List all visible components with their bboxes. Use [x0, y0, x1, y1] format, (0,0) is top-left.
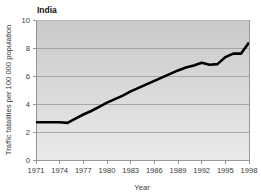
y-tick-label: 10: [22, 16, 30, 25]
chart-title: India: [37, 5, 57, 15]
x-tick-label: 1974: [51, 166, 68, 175]
x-tick-label: 1989: [170, 166, 187, 175]
line-chart: 0246810 19711974197719801983198619891992…: [0, 0, 261, 193]
x-tick-label: 1998: [241, 166, 258, 175]
y-axis-ticks: 0246810: [22, 16, 36, 165]
y-axis-title: Traffic fatalities per 100 000 populatio…: [4, 25, 13, 155]
x-tick-label: 1977: [75, 166, 92, 175]
x-axis-ticks: 1971197419771980198319861989199219951998: [28, 160, 258, 175]
y-tick-label: 8: [26, 44, 30, 53]
y-tick-label: 2: [26, 128, 30, 137]
x-tick-label: 1992: [193, 166, 210, 175]
x-tick-label: 1986: [146, 166, 163, 175]
x-tick-label: 1971: [28, 166, 45, 175]
y-tick-label: 6: [26, 72, 30, 81]
x-tick-label: 1983: [122, 166, 139, 175]
x-tick-label: 1980: [99, 166, 116, 175]
x-tick-label: 1995: [217, 166, 234, 175]
y-tick-label: 0: [26, 156, 30, 165]
plot-area-background: [36, 20, 249, 160]
y-tick-label: 4: [26, 100, 30, 109]
x-axis-title: Year: [134, 183, 150, 192]
chart-container: 0246810 19711974197719801983198619891992…: [0, 0, 261, 193]
